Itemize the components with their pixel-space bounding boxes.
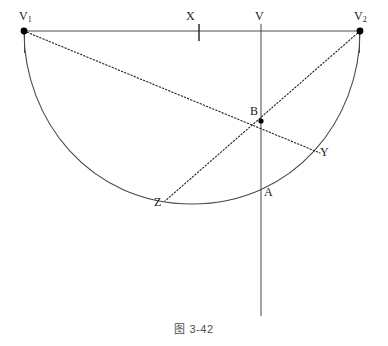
point-label-v1-text: V — [19, 9, 28, 23]
point-label-x: X — [186, 10, 195, 22]
point-label-v1-subscript: 1 — [28, 15, 32, 24]
point-marker-v1 — [21, 28, 28, 35]
chord-v1-to-y — [24, 31, 320, 153]
point-label-v: V — [255, 10, 264, 22]
point-label-v2: V2 — [354, 10, 367, 22]
point-marker-v2 — [357, 28, 364, 35]
point-label-v1: V1 — [19, 10, 32, 22]
point-marker-b — [258, 118, 263, 123]
geometry-figure: V1 V2 V X B Y Z A 图 3-42 — [0, 0, 388, 346]
point-label-v2-text: V — [354, 9, 363, 23]
chord-v2-to-z — [165, 31, 360, 201]
point-label-z: Z — [154, 196, 161, 208]
figure-caption: 图 3-42 — [0, 320, 388, 336]
geometry-canvas — [0, 0, 388, 346]
point-label-y: Y — [320, 146, 329, 158]
point-label-b: B — [250, 105, 258, 117]
point-label-a: A — [264, 186, 273, 198]
point-label-v2-subscript: 2 — [363, 15, 367, 24]
main-arc — [24, 31, 360, 204]
